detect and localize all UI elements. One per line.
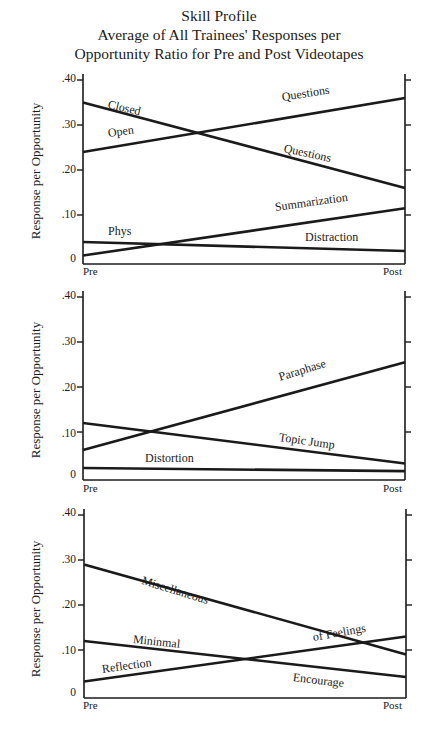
x-tick-post: Post: [383, 265, 402, 277]
x-tick-pre: Pre: [83, 699, 98, 711]
series-line-paraphase: [83, 362, 405, 450]
y-tick-30: .30: [52, 335, 76, 347]
series-line-topic-jump: [83, 423, 405, 464]
y-axis-label-panel-3: Response per Opportunity: [28, 519, 44, 699]
y-tick-30: .30: [52, 553, 76, 565]
y-tick-0: 0: [52, 252, 76, 264]
y-tick-0: 0: [52, 686, 76, 698]
y-tick-10: .10: [52, 644, 76, 656]
y-tick-0: 0: [52, 468, 76, 480]
chart-canvas: [0, 0, 438, 738]
x-tick-pre: Pre: [83, 482, 98, 494]
y-tick-20: .20: [52, 381, 76, 393]
label-distraction: Distraction: [305, 230, 358, 245]
y-axis-label-panel-2: Response per Opportunity: [28, 300, 44, 480]
y-tick-10: .10: [52, 208, 76, 220]
y-tick-40: .40: [52, 506, 76, 518]
y-tick-40: .40: [52, 72, 76, 84]
x-tick-pre: Pre: [83, 265, 98, 277]
y-axis-label-panel-1: Response per Opportunity: [28, 81, 44, 261]
y-tick-20: .20: [52, 598, 76, 610]
y-tick-30: .30: [52, 118, 76, 130]
label-distortion: Distortion: [145, 451, 194, 466]
label-phys: Phys: [108, 224, 131, 239]
series-line-distortion: [83, 468, 405, 471]
x-tick-post: Post: [383, 699, 402, 711]
y-tick-40: .40: [52, 289, 76, 301]
y-tick-20: .20: [52, 163, 76, 175]
y-tick-10: .10: [52, 427, 76, 439]
x-tick-post: Post: [383, 482, 402, 494]
